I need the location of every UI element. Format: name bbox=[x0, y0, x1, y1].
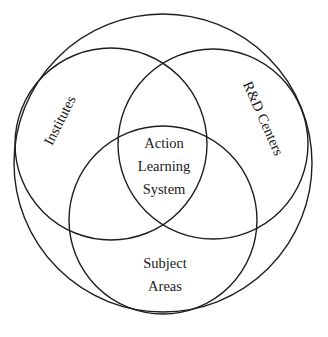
subject-areas-label-line-2: Areas bbox=[148, 278, 182, 294]
subject-areas-label-line-1: Subject bbox=[143, 255, 187, 271]
center-label-line-1: Action bbox=[144, 135, 184, 151]
center-label-line-3: System bbox=[143, 181, 186, 197]
center-label-line-2: Learning bbox=[138, 158, 190, 174]
rd-centers-label: R&D Centers bbox=[240, 79, 287, 158]
venn-diagram: Institutes R&D Centers Action Learning S… bbox=[0, 0, 328, 337]
institutes-label: Institutes bbox=[40, 93, 79, 148]
